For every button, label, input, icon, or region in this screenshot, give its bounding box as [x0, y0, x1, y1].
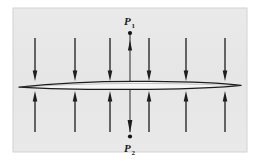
p1-symbol: P — [124, 15, 131, 27]
p2-subscript: 2 — [132, 149, 136, 157]
figure-root: P 1 P 2 — [0, 0, 263, 166]
pressure-distribution-diagram: P 1 P 2 — [0, 0, 263, 166]
p2-symbol: P — [124, 142, 131, 154]
p1-subscript: 1 — [132, 22, 136, 30]
point-p1-dot — [128, 31, 132, 35]
point-p2-dot — [128, 134, 132, 138]
